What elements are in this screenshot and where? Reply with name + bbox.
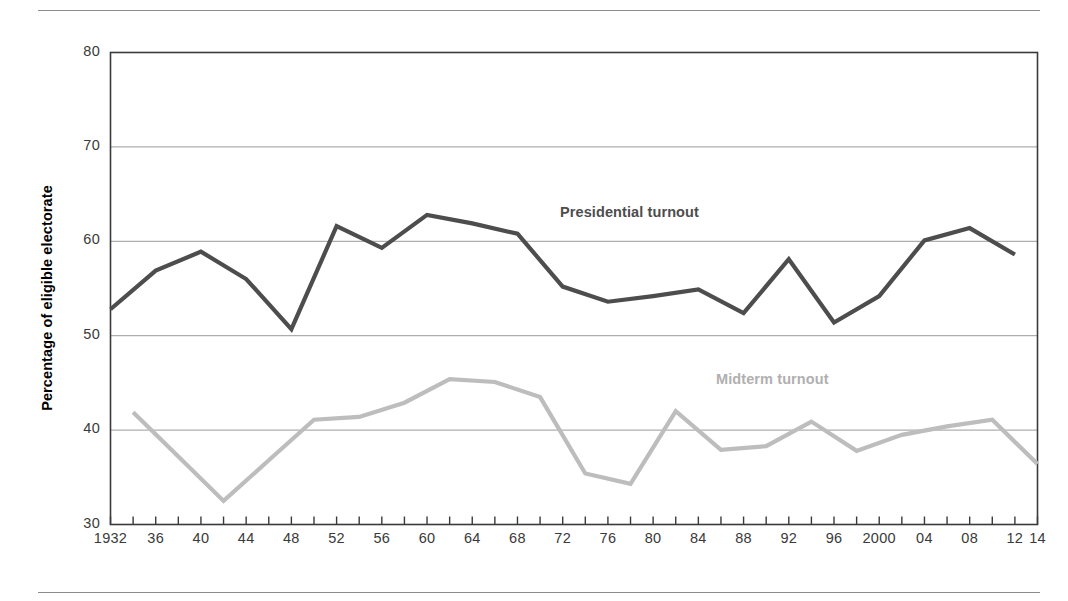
x-axis-tick-labels: 1932364044485256606468727680848892962000… xyxy=(0,0,1068,601)
x-tick-label-2008: 08 xyxy=(961,530,978,546)
x-tick-label-1936: 36 xyxy=(147,530,164,546)
x-tick-label-1988: 88 xyxy=(735,530,752,546)
x-tick-label-1980: 80 xyxy=(645,530,662,546)
x-tick-label-2014: 14 xyxy=(1029,530,1046,546)
x-tick-label-1976: 76 xyxy=(600,530,617,546)
x-tick-label-1960: 60 xyxy=(419,530,436,546)
x-tick-label-1948: 48 xyxy=(283,530,300,546)
x-tick-label-2004: 04 xyxy=(916,530,933,546)
x-tick-label-1956: 56 xyxy=(373,530,390,546)
x-tick-label-1940: 40 xyxy=(193,530,210,546)
x-tick-label-2012: 12 xyxy=(1007,530,1024,546)
x-tick-label-1984: 84 xyxy=(690,530,707,546)
x-tick-label-1992: 92 xyxy=(780,530,797,546)
turnout-chart-figure: Percentage of eligible electorate 304050… xyxy=(0,0,1068,601)
x-tick-label-1932: 1932 xyxy=(94,530,127,546)
x-tick-label-1964: 64 xyxy=(464,530,481,546)
x-tick-label-1996: 96 xyxy=(826,530,843,546)
x-tick-label-1968: 68 xyxy=(509,530,526,546)
series-label-presidential: Presidential turnout xyxy=(560,204,699,220)
plot-area: Percentage of eligible electorate 304050… xyxy=(0,0,1068,601)
series-label-midterm: Midterm turnout xyxy=(716,371,829,387)
x-tick-label-2000: 2000 xyxy=(862,530,895,546)
x-tick-label-1952: 52 xyxy=(328,530,345,546)
x-tick-label-1972: 72 xyxy=(554,530,571,546)
x-tick-label-1944: 44 xyxy=(238,530,255,546)
